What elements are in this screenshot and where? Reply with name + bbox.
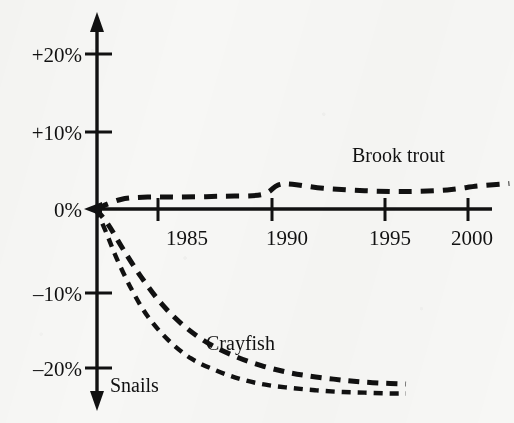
series-labels: Brook trout Crayfish Snails xyxy=(110,144,445,396)
chart-figure: +20% +10% 0% –10% –20% 1985 1990 1995 20… xyxy=(0,0,514,423)
x-tick-label-1995: 1995 xyxy=(369,226,411,250)
axis-group xyxy=(84,12,492,411)
y-axis-down-arrowhead xyxy=(90,391,104,411)
y-tick-label-20: +20% xyxy=(32,43,82,67)
y-tick-label-neg10: –10% xyxy=(32,282,82,306)
line-chart-canvas: +20% +10% 0% –10% –20% 1985 1990 1995 20… xyxy=(0,0,514,423)
y-axis-up-arrowhead xyxy=(90,12,104,32)
x-tick-label-2000: 2000 xyxy=(451,226,493,250)
y-tick-label-neg20: –20% xyxy=(32,357,82,381)
series-label-crayfish: Crayfish xyxy=(206,332,275,355)
series-label-snails: Snails xyxy=(110,374,159,396)
y-tick-label-0: 0% xyxy=(54,198,82,222)
x-axis-ticks: 1985 1990 1995 2000 xyxy=(158,198,493,250)
series-line-snails xyxy=(96,209,406,393)
x-tick-label-1985: 1985 xyxy=(166,226,208,250)
series-line-crayfish xyxy=(96,209,406,384)
series-label-brook-trout: Brook trout xyxy=(352,144,445,166)
y-tick-label-10: +10% xyxy=(32,121,82,145)
x-tick-label-1990: 1990 xyxy=(266,226,308,250)
